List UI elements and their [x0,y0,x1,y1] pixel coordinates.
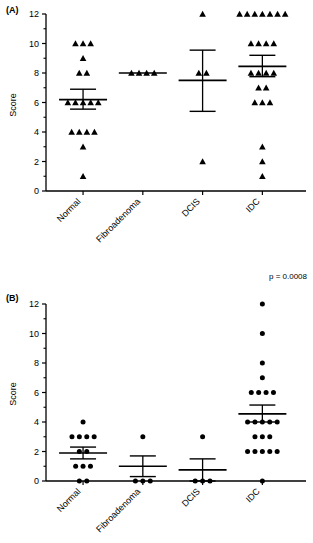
data-point [73,464,78,469]
data-point [263,40,270,46]
data-point [80,173,87,179]
y-tick-label: 2 [34,157,39,167]
data-point [251,99,258,105]
data-point [199,158,206,164]
data-point [81,464,86,469]
data-point [200,434,205,439]
data-point [260,479,265,484]
data-point [80,40,87,46]
y-tick-label: 0 [34,186,39,196]
data-point [252,449,257,454]
figure-container: (A) 024681012ScoreNormalFibroadenomaDCIS… [0,0,313,543]
data-point [259,173,266,179]
data-point [275,449,280,454]
x-tick-label-normal: Normal [55,196,83,224]
data-point [88,464,93,469]
data-point [236,11,243,17]
data-point [260,434,265,439]
data-point [81,420,86,425]
y-tick-label: 8 [34,358,39,368]
y-tick-label: 10 [29,39,39,49]
y-tick-label: 12 [29,299,39,309]
data-point [274,11,281,17]
data-point [263,70,270,76]
x-tick-label-normal: Normal [55,486,83,514]
panel-a-label: (A) [6,5,19,15]
data-point [84,434,89,439]
data-point [76,129,83,135]
y-tick-label: 6 [34,388,39,398]
data-point [72,40,79,46]
x-tick-label-dcis: DCIS [180,196,202,218]
data-point [275,420,280,425]
panel-a-plot: 024681012ScoreNormalFibroadenomaDCISIDC [0,0,313,271]
data-point [133,479,138,484]
pvalue-annotation: p = 0.0008 [269,272,307,281]
x-tick-label-dcis: DCIS [180,486,202,508]
y-tick-label: 10 [29,329,39,339]
data-point [255,70,262,76]
data-point [195,70,202,76]
panel-a: (A) 024681012ScoreNormalFibroadenomaDCIS… [0,0,313,271]
data-point [260,302,265,307]
x-tick-label-idc: IDC [244,486,262,504]
data-point [260,331,265,336]
x-tick-label-fibroadenoma: Fibroadenoma [94,196,142,244]
data-point [91,129,98,135]
y-tick-label: 12 [29,9,39,19]
data-point [77,434,82,439]
data-point [267,434,272,439]
data-point [259,158,266,164]
data-point [260,375,265,380]
data-point [249,390,254,395]
data-point [259,99,266,105]
data-point [245,449,250,454]
data-point [84,129,91,135]
data-point [248,70,255,76]
data-point [87,40,94,46]
data-point [271,390,276,395]
data-point [264,390,269,395]
data-point [92,434,97,439]
x-tick-label-fibroadenoma: Fibroadenoma [94,486,142,534]
data-point [260,449,265,454]
y-tick-label: 0 [34,476,39,486]
y-tick-label: 6 [34,98,39,108]
data-point [282,11,289,17]
panel-b-plot: 024681012ScoreNormalFibroadenomaDCISIDC [0,272,313,543]
data-point [270,40,277,46]
data-point [248,40,255,46]
y-tick-label: 4 [34,417,39,427]
data-point [68,129,75,135]
data-point [255,40,262,46]
data-point [80,55,87,61]
panel-b: (B) p = 0.0008 024681012ScoreNormalFibro… [0,272,313,543]
x-tick-label-idc: IDC [244,196,262,214]
data-point [148,479,153,484]
data-point [270,70,277,76]
data-point [267,11,274,17]
data-point [80,143,87,149]
data-point [267,99,274,105]
data-point [77,479,82,484]
y-axis-title: Score [8,93,18,117]
data-point [203,70,210,76]
data-point [267,449,272,454]
data-point [263,84,270,90]
data-point [255,84,262,90]
data-point [245,420,250,425]
data-point [244,11,251,17]
data-point [260,361,265,366]
data-point [140,434,145,439]
data-point [84,70,91,76]
data-point [251,11,258,17]
data-point [256,390,261,395]
data-point [69,434,74,439]
panel-b-label: (B) [6,293,19,303]
data-point [252,434,257,439]
data-point [259,143,266,149]
y-tick-label: 4 [34,127,39,137]
data-point [259,11,266,17]
data-point [76,70,83,76]
data-point [84,479,89,484]
